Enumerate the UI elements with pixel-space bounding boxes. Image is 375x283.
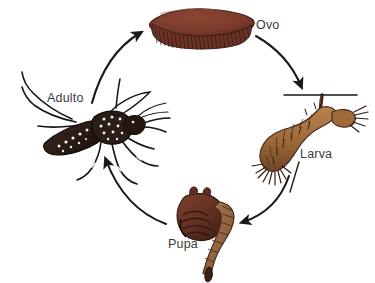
arrow-larva-to-pupa bbox=[243, 176, 289, 222]
pupa-icon bbox=[177, 187, 234, 282]
arrow-adulto-to-ovo bbox=[92, 33, 140, 103]
stage-label-larva: Larva bbox=[300, 147, 332, 161]
arrow-pupa-to-adulto bbox=[106, 160, 166, 224]
stage-label-ovo: Ovo bbox=[256, 18, 280, 32]
mosquito-life-cycle-diagram: Ovo Larva Pupa Adulto bbox=[0, 0, 375, 283]
larva-icon bbox=[252, 95, 368, 192]
arrow-ovo-to-larva bbox=[256, 36, 301, 86]
egg-raft-icon bbox=[149, 9, 254, 50]
stage-label-pupa: Pupa bbox=[168, 237, 198, 251]
stage-label-adulto: Adulto bbox=[47, 91, 84, 105]
